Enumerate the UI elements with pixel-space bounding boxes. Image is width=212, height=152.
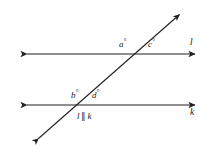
line-label-l: l	[190, 38, 193, 48]
parallel-statement: l∥k	[77, 112, 92, 121]
parallel-right-line: k	[88, 111, 92, 121]
parallel-symbol: ∥	[80, 111, 88, 121]
angle-b-degree: °	[76, 88, 79, 96]
transversal-line	[39, 15, 180, 139]
angle-c-degree: °	[152, 37, 155, 45]
angle-d-degree: °	[97, 88, 100, 96]
angle-label-c: c°	[148, 38, 155, 49]
angle-label-d: d°	[92, 89, 100, 100]
geometry-figure: a° c° b° d° l k l∥k	[0, 0, 212, 152]
angle-label-a: a°	[119, 38, 127, 49]
geometry-canvas	[0, 0, 212, 152]
line-label-k: k	[190, 108, 194, 118]
angle-label-b: b°	[71, 89, 79, 100]
angle-a-degree: °	[124, 37, 127, 45]
